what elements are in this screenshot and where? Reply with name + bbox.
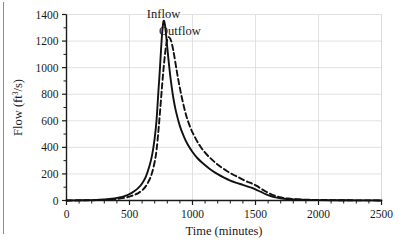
- y-axis-title: Flow (ft3/s): [11, 79, 25, 136]
- series-label-outflow: Outflow: [159, 24, 201, 38]
- y-axis-tick-label: 200: [41, 168, 59, 180]
- y-axis-tick-label: 400: [41, 141, 59, 153]
- flow-hydrograph-chart: 0200400600800100012001400050010001500200…: [0, 0, 407, 250]
- y-axis-tick-label: 1000: [36, 62, 59, 74]
- x-axis-tick-label: 500: [121, 208, 139, 220]
- x-axis-tick-label: 1500: [244, 208, 267, 220]
- y-axis-tick-label: 600: [41, 115, 59, 127]
- x-axis-tick-label: 2500: [370, 208, 393, 220]
- series-label-inflow: Inflow: [147, 7, 180, 21]
- chart-canvas: 0200400600800100012001400050010001500200…: [0, 0, 407, 250]
- y-axis-tick-label: 800: [41, 88, 59, 100]
- x-axis-tick-label: 2000: [307, 208, 330, 220]
- x-axis-tick-label: 0: [64, 208, 70, 220]
- y-axis-tick-label: 1200: [36, 35, 59, 47]
- series-line-outflow: [67, 37, 382, 200]
- y-axis-tick-label: 0: [53, 195, 59, 207]
- series-line-inflow: [67, 21, 382, 201]
- x-axis-title: Time (minutes): [186, 224, 263, 238]
- x-axis-tick-label: 1000: [181, 208, 204, 220]
- figure-left-border: [3, 2, 4, 234]
- y-axis-tick-label: 1400: [36, 9, 59, 21]
